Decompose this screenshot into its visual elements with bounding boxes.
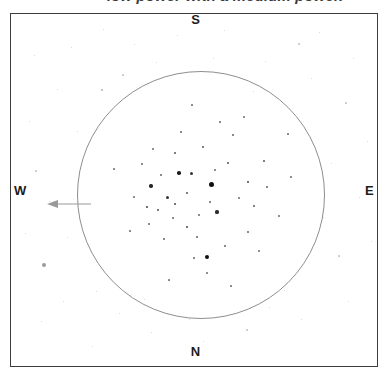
star-chart: low power with a medium power. S N W E bbox=[0, 0, 391, 379]
compass-label-north: N bbox=[0, 344, 391, 359]
caption-strip: low power with a medium power. bbox=[0, 0, 391, 12]
caption-text: low power with a medium power. bbox=[107, 0, 343, 4]
chart-frame bbox=[10, 13, 378, 367]
compass-label-south: S bbox=[0, 12, 391, 27]
compass-label-west: W bbox=[14, 183, 26, 198]
west-direction-arrow-icon bbox=[39, 184, 99, 224]
field-of-view-circle bbox=[77, 71, 325, 319]
compass-label-east: E bbox=[365, 183, 374, 198]
